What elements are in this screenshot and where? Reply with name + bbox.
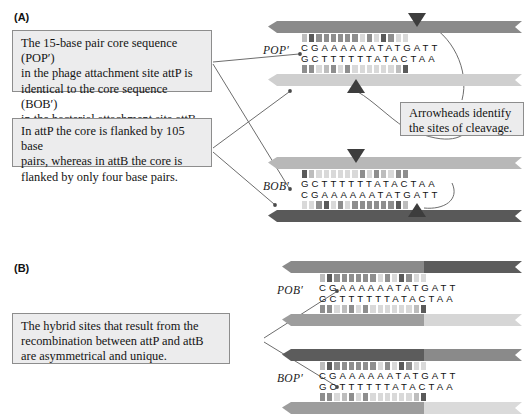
base-pair-tick <box>302 65 307 73</box>
base-pair-tick <box>399 305 404 313</box>
base-pair-tick <box>360 65 365 73</box>
leader-dot <box>288 89 292 93</box>
base-pair-tick <box>367 65 372 73</box>
leader-flanking-to-popprime <box>213 92 289 148</box>
ladder-top-pobprime <box>320 274 428 282</box>
base-pair-tick <box>324 170 329 178</box>
base-pair-tick <box>406 305 411 313</box>
base-pair-tick <box>342 305 347 313</box>
base-pair-tick <box>352 170 357 178</box>
base-pair-tick <box>327 274 332 282</box>
base-pair-tick <box>374 34 379 42</box>
base-pair-tick <box>320 274 325 282</box>
panel-label-b: (B) <box>14 262 29 274</box>
ladder-bottom-bopprime <box>320 393 428 401</box>
base-pair-tick <box>378 305 383 313</box>
base-pair-tick <box>334 305 339 313</box>
base-pair-tick <box>338 65 343 73</box>
strand-bottom-popprime: GCTTTTTTATACTAA <box>301 53 522 64</box>
backbone-bottom-pobprime <box>282 313 522 327</box>
base-pair-tick <box>406 393 411 401</box>
base-pair-tick <box>320 305 325 313</box>
dna-site-pobprime: CGAAAAAATATGATT GCTTTTTTATACTAA <box>282 260 522 327</box>
base-pair-tick <box>309 34 314 42</box>
base-pair-tick <box>367 34 372 42</box>
base-pair-tick <box>320 362 325 370</box>
base-pair-tick <box>309 65 314 73</box>
base-pair-tick <box>396 201 401 209</box>
ladder-top-bobprime <box>302 170 410 178</box>
base-pair-tick <box>352 201 357 209</box>
backbone-bottom-bobprime <box>268 209 522 223</box>
base-pair-tick <box>309 201 314 209</box>
strand-bottom-bopprime: GCTTTTTTATACTAA <box>319 381 522 392</box>
base-pair-tick <box>316 65 321 73</box>
ladder-top-bopprime <box>320 362 428 370</box>
base-pair-tick <box>381 65 386 73</box>
base-pair-tick <box>316 201 321 209</box>
backbone-top-popprime <box>268 20 522 34</box>
base-pair-tick <box>345 201 350 209</box>
base-pair-tick <box>396 65 401 73</box>
base-pair-tick <box>414 274 419 282</box>
base-pair-tick <box>342 274 347 282</box>
base-pair-tick <box>327 305 332 313</box>
base-pair-tick <box>302 170 307 178</box>
base-pair-tick <box>370 305 375 313</box>
panel-label-a: (A) <box>14 11 29 23</box>
strand-top-bopprime: CGAAAAAATATGATT <box>319 370 522 381</box>
base-pair-tick <box>356 393 361 401</box>
cleavage-arrowhead <box>406 11 428 27</box>
base-pair-tick <box>392 362 397 370</box>
ladder-bottom-popprime <box>302 65 410 73</box>
base-pair-tick <box>338 201 343 209</box>
base-pair-tick <box>378 393 383 401</box>
leader-arrowheads-mid-upper <box>358 92 404 127</box>
base-pair-tick <box>392 305 397 313</box>
base-pair-tick <box>342 393 347 401</box>
base-pair-tick <box>414 362 419 370</box>
base-pair-tick <box>378 362 383 370</box>
base-pair-tick <box>360 170 365 178</box>
base-pair-tick <box>316 34 321 42</box>
callout-line: are asymmetrical and unique. <box>21 349 222 364</box>
base-pair-tick <box>374 201 379 209</box>
base-pair-tick <box>356 362 361 370</box>
base-pair-tick <box>334 362 339 370</box>
backbone-top-pobprime <box>282 260 522 274</box>
base-pair-tick <box>352 65 357 73</box>
base-pair-tick <box>338 34 343 42</box>
base-pair-tick <box>363 362 368 370</box>
base-pair-tick <box>349 393 354 401</box>
base-pair-tick <box>388 201 393 209</box>
base-pair-tick <box>302 201 307 209</box>
backbone-top-bobprime <box>268 156 522 170</box>
callout-line: flanked by only four base pairs. <box>21 170 204 185</box>
base-pair-tick <box>399 274 404 282</box>
flanking-callout: In attP the core is flanked by 105 base … <box>12 118 212 167</box>
callout-line: In attP the core is flanked by 105 base <box>21 124 204 154</box>
base-pair-tick <box>399 362 404 370</box>
base-pair-tick <box>421 393 426 401</box>
base-pair-tick <box>370 362 375 370</box>
base-pair-tick <box>406 362 411 370</box>
base-pair-tick <box>349 305 354 313</box>
callout-line: recombination between attP and attB <box>21 334 222 349</box>
strand-bottom-pobprime: GCTTTTTTATACTAA <box>319 293 522 304</box>
arrowheads-callout: Arrowheads identify the sites of cleavag… <box>400 102 524 136</box>
base-pair-tick <box>392 274 397 282</box>
base-pair-tick <box>367 201 372 209</box>
base-pair-tick <box>381 201 386 209</box>
base-pair-tick <box>345 65 350 73</box>
base-pair-tick <box>403 34 408 42</box>
base-pair-tick <box>360 34 365 42</box>
base-pair-tick <box>381 170 386 178</box>
base-pair-tick <box>324 65 329 73</box>
cleavage-arrowhead <box>345 79 367 95</box>
base-pair-tick <box>342 362 347 370</box>
backbone-top-bopprime <box>282 348 522 362</box>
cleavage-arrowhead <box>345 147 367 163</box>
strand-top-popprime: CGAAAAAATATGATT <box>301 42 522 53</box>
hybrid-sites-callout: The hybrid sites that result from the re… <box>12 313 230 364</box>
base-pair-tick <box>388 34 393 42</box>
